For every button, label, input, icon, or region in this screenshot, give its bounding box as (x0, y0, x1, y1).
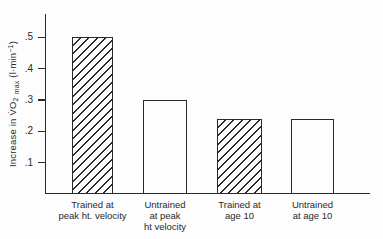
x-category-label: Untrained at age 10 (253, 199, 373, 221)
bar-chart-figure: Increase in V̇O2max (l·min−1) .1.2.3.4.5… (0, 0, 383, 239)
x-axis-labels: Trained at peak ht. velocityUntrained at… (0, 0, 383, 239)
